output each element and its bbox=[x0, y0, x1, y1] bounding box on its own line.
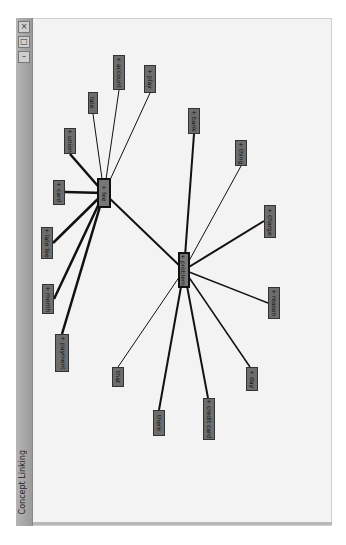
concept-node-problem[interactable]: + problem bbox=[178, 252, 190, 288]
graph-edges bbox=[0, 0, 346, 545]
concept-node-account[interactable]: + account bbox=[113, 55, 125, 90]
concept-node-bank[interactable]: + bank bbox=[188, 108, 200, 134]
concept-node-day[interactable]: + day bbox=[246, 367, 258, 391]
concept-node-play[interactable]: + play bbox=[144, 65, 156, 93]
concept-node-reason[interactable]: + reason bbox=[268, 287, 280, 319]
concept-node-credit-card[interactable]: + credit card bbox=[203, 398, 215, 440]
concept-node-month[interactable]: + month bbox=[42, 284, 54, 314]
concept-node-card[interactable]: + card bbox=[53, 180, 65, 205]
concept-node-thing[interactable]: + thing bbox=[235, 140, 247, 166]
concept-node-that[interactable]: that bbox=[112, 367, 124, 387]
concept-node-payment[interactable]: + payment bbox=[55, 334, 69, 372]
concept-node-late[interactable]: late bbox=[88, 92, 98, 114]
concept-node-late-fee[interactable]: + late fee bbox=[41, 227, 53, 259]
concept-node-there[interactable]: there bbox=[153, 410, 165, 436]
concept-node-charge[interactable]: + charge bbox=[264, 205, 276, 238]
concept-node-fee[interactable]: + fee bbox=[97, 178, 111, 208]
concept-node-union[interactable]: + union bbox=[64, 128, 76, 154]
